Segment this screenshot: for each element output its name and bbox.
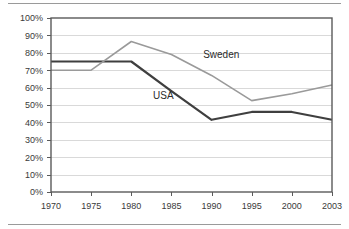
y-axis-tick-label: 40% bbox=[25, 118, 43, 128]
x-axis-tick-labels: 19701975198019851990199520002003 bbox=[41, 201, 342, 211]
x-axis-tick-label: 1990 bbox=[202, 201, 222, 211]
x-axis-tick-label: 1985 bbox=[161, 201, 181, 211]
y-axis-tick-label: 30% bbox=[25, 135, 43, 145]
y-axis-tick-label: 0% bbox=[30, 187, 43, 197]
y-axis-tick-label: 100% bbox=[20, 13, 43, 23]
figure-top-rule bbox=[8, 3, 341, 4]
y-axis-tick-label: 60% bbox=[25, 83, 43, 93]
y-axis-tick-label: 50% bbox=[25, 100, 43, 110]
x-axis-tick-label: 2000 bbox=[282, 201, 302, 211]
figure-bottom-rule bbox=[8, 224, 341, 225]
line-chart: 0%10%20%30%40%50%60%70%80%90%100% 197019… bbox=[0, 10, 349, 215]
y-axis-tick-label: 20% bbox=[25, 153, 43, 163]
x-axis-tick-label: 1980 bbox=[121, 201, 141, 211]
series-label-sweden: Sweden bbox=[203, 49, 239, 60]
x-axis-tick-label: 1995 bbox=[242, 201, 262, 211]
y-axis-tick-label: 90% bbox=[25, 31, 43, 41]
y-axis-tick-label: 10% bbox=[25, 170, 43, 180]
series-label-usa: USA bbox=[153, 90, 174, 101]
x-axis-tick-label: 2003 bbox=[322, 201, 342, 211]
y-axis-tick-label: 80% bbox=[25, 48, 43, 58]
chart-canvas: 0%10%20%30%40%50%60%70%80%90%100% 197019… bbox=[0, 10, 349, 215]
figure-root: 0%10%20%30%40%50%60%70%80%90%100% 197019… bbox=[0, 0, 349, 229]
y-axis-tick-label: 70% bbox=[25, 66, 43, 76]
y-axis-tick-labels: 0%10%20%30%40%50%60%70%80%90%100% bbox=[20, 13, 43, 197]
x-axis-tick-label: 1970 bbox=[41, 201, 61, 211]
x-axis-tick-label: 1975 bbox=[81, 201, 101, 211]
